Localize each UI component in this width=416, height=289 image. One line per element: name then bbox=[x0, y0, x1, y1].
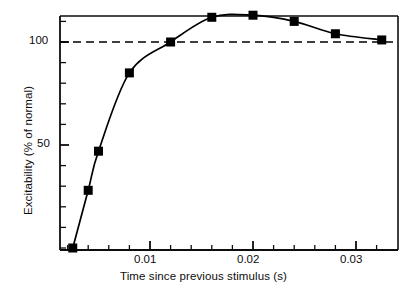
data-point-marker bbox=[249, 11, 258, 20]
data-point-marker bbox=[331, 29, 340, 38]
data-point-marker bbox=[377, 35, 386, 44]
y-tick-label: 50 bbox=[37, 137, 50, 149]
plot-frame bbox=[60, 16, 398, 250]
data-point-marker bbox=[84, 186, 93, 195]
y-tick-label: 100 bbox=[29, 34, 48, 46]
excitability-curve bbox=[73, 14, 382, 248]
y-axis-label: Excitability (% of normal) bbox=[22, 86, 34, 215]
plot-area bbox=[0, 0, 416, 289]
data-point-marker bbox=[68, 244, 77, 253]
x-tick-label: 0.03 bbox=[340, 253, 362, 265]
data-point-marker bbox=[94, 147, 103, 156]
y-axis-ticks bbox=[60, 21, 69, 248]
x-axis-label: Time since previous stimulus (s) bbox=[120, 270, 287, 282]
data-point-markers bbox=[68, 11, 386, 253]
data-point-marker bbox=[207, 13, 216, 22]
data-point-marker bbox=[166, 38, 175, 47]
excitability-recovery-chart: 50100 0.010.020.03 Excitability (% of no… bbox=[0, 0, 416, 289]
data-point-marker bbox=[125, 68, 134, 77]
x-axis-ticks bbox=[68, 241, 377, 250]
x-tick-label: 0.02 bbox=[237, 253, 259, 265]
x-tick-label: 0.01 bbox=[134, 253, 156, 265]
data-point-marker bbox=[290, 17, 299, 26]
